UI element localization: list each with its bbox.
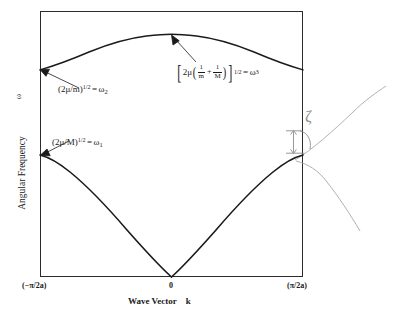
yaxis-symbol-omega: ω (14, 89, 23, 105)
omega3-paren-close: ) (223, 66, 227, 78)
omega3-paren-open: ( (193, 66, 197, 78)
omega3-fraction-2: 1M (213, 64, 221, 80)
omega2-subscript: 2 (105, 88, 108, 95)
xaxis-tick-zero: 0 (169, 281, 173, 290)
omega3-frac1-numerator: 1 (198, 64, 204, 72)
omega3-bracket-open: [ (177, 65, 181, 79)
omega2-numerator: 2μ/m (61, 84, 80, 94)
figure-root: (2μ/m)1/2=ω2 (2μ/M)1/2=ω1 [2μ(1m+1M)]1/2… (0, 0, 396, 315)
omega2-equals: = (91, 84, 99, 94)
annotation-omega3: [2μ(1m+1M)]1/2=ω3 (176, 64, 259, 81)
omega3-frac2-numerator: 1 (215, 64, 221, 72)
omega3-bracket-close: ] (228, 65, 232, 79)
omega3-coefficient: 2μ (183, 68, 192, 77)
xaxis-title: Wave Vectork (128, 296, 191, 306)
annotation-omega2: (2μ/m)1/2=ω2 (58, 84, 108, 95)
omega3-equals: = (242, 68, 250, 77)
omega3-fraction-1: 1m (198, 64, 205, 80)
annotation-omega1: (2μ/M)1/2=ω1 (52, 137, 103, 148)
omega2-exponent: 1/2 (83, 84, 91, 90)
yaxis-title: Angular Frequency (17, 103, 27, 243)
omega1-numerator: 2μ/M (55, 137, 75, 147)
pencil-annotation-glyph: ζ (304, 108, 312, 127)
omega1-subscript: 1 (100, 141, 103, 148)
omega3-exponent: 1/2 (234, 69, 242, 75)
omega3-plus: + (205, 68, 213, 76)
omega1-exponent: 1/2 (78, 137, 86, 143)
omega3-subscript: 3 (256, 69, 259, 76)
xaxis-tick-left: (−π/2a) (22, 281, 47, 290)
xaxis-tick-right: (π/2a) (287, 281, 307, 290)
omega3-frac1-denominator: m (198, 72, 205, 81)
omega1-equals: = (86, 137, 94, 147)
xaxis-variable-k: k (186, 296, 191, 306)
omega3-frac2-denominator: M (213, 72, 221, 81)
xaxis-title-text: Wave Vector (128, 296, 177, 306)
